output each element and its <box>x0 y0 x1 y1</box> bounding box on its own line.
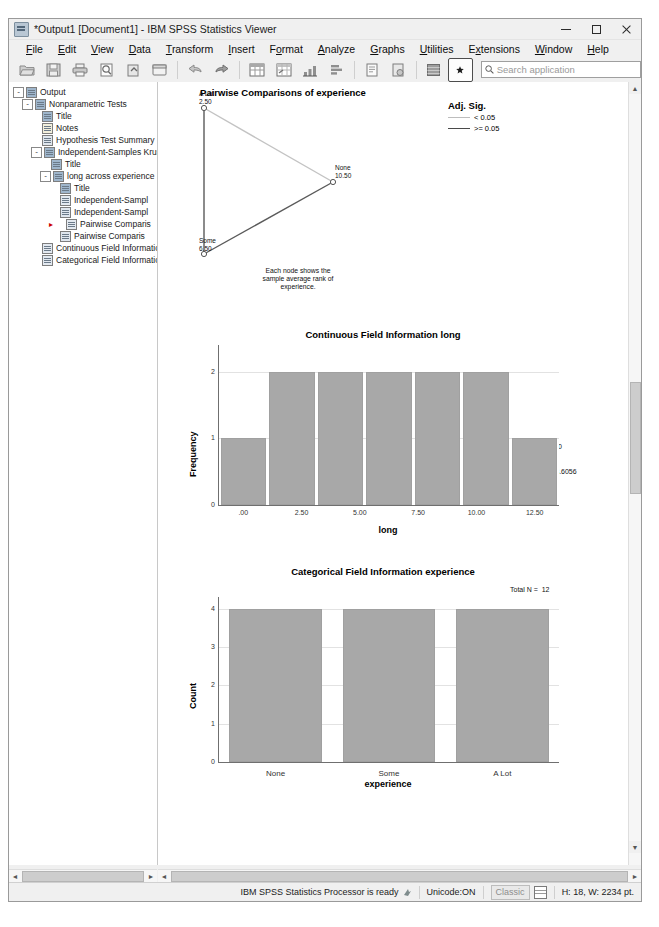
outline-scroll-left-arrow[interactable]: ◄ <box>9 871 21 883</box>
expander-spacer <box>49 208 58 217</box>
open-file-icon[interactable] <box>15 58 39 82</box>
search-input[interactable]: Search application <box>481 61 641 78</box>
menu-file[interactable]: File <box>19 42 50 56</box>
x-tick-label: 5.00 <box>346 509 374 516</box>
viewer-scroll-right-arrow[interactable]: ► <box>629 871 641 883</box>
menu-extensions[interactable]: Extensions <box>462 42 527 56</box>
outline-item[interactable]: Pairwise Comparis <box>13 230 157 242</box>
log-icon <box>53 171 64 182</box>
histogram-bar[interactable] <box>512 438 558 505</box>
close-button[interactable] <box>611 19 641 39</box>
scroll-down-arrow[interactable]: ▼ <box>629 841 641 853</box>
menu-analyze[interactable]: Analyze <box>311 42 362 56</box>
spss-viewer-icon <box>14 22 29 37</box>
outline-item-label: long across experience <box>67 171 154 181</box>
vertical-scroll-thumb[interactable] <box>630 382 641 494</box>
save-icon[interactable] <box>41 58 65 82</box>
menu-data[interactable]: Data <box>122 42 158 56</box>
print-preview-icon[interactable] <box>94 58 118 82</box>
maximize-button[interactable] <box>581 19 611 39</box>
select-cases-icon[interactable] <box>360 58 384 82</box>
expander-icon[interactable]: - <box>31 147 42 158</box>
outline-item[interactable]: -Output <box>13 86 157 98</box>
outline-item[interactable]: -Nonparametric Tests <box>13 98 157 110</box>
outline-scroll-right-arrow[interactable]: ► <box>145 871 157 883</box>
viewer-horizontal-scrollbar[interactable]: ◄ ► <box>158 869 641 883</box>
outline-item[interactable]: Hypothesis Test Summary <box>13 134 157 146</box>
recall-dialog-icon[interactable] <box>147 58 171 82</box>
menu-help[interactable]: Help <box>580 42 616 56</box>
outline-item[interactable]: Independent-Sampl <box>13 194 157 206</box>
goto-case-icon[interactable] <box>271 58 295 82</box>
viewer-vertical-scrollbar[interactable]: ▲ ▼ <box>628 82 641 865</box>
output-document-pane[interactable]: Pairwise Comparisons of experience A Lot… <box>158 82 641 865</box>
histogram-x-axis-title: long <box>218 525 558 535</box>
chart-icon <box>42 255 53 266</box>
viewer-scroll-thumb[interactable] <box>171 871 628 882</box>
menu-edit[interactable]: Edit <box>51 42 83 56</box>
histogram-bar[interactable] <box>366 372 412 505</box>
menu-insert[interactable]: Insert <box>221 42 261 56</box>
outline-horizontal-scrollbar[interactable]: ◄ ► <box>9 869 157 883</box>
expander-icon[interactable]: - <box>22 99 33 110</box>
expander-icon[interactable]: - <box>40 171 51 182</box>
scroll-up-arrow[interactable]: ▲ <box>629 82 641 94</box>
viewer-scroll-left-arrow[interactable]: ◄ <box>158 871 170 883</box>
redo-icon[interactable] <box>209 58 233 82</box>
continuous-field-information-chart[interactable]: Continuous Field Information long N = 12… <box>158 327 628 542</box>
expander-spacer <box>40 160 49 169</box>
menu-format[interactable]: Format <box>263 42 310 56</box>
variables-icon[interactable] <box>298 58 322 82</box>
histogram-bar[interactable] <box>415 372 461 505</box>
category-bar[interactable] <box>456 609 549 762</box>
histogram-bar[interactable] <box>318 372 364 505</box>
menu-transform[interactable]: Transform <box>159 42 220 56</box>
menu-window[interactable]: Window <box>528 42 579 56</box>
status-mode-cell: Classic <box>484 885 554 900</box>
table-icon <box>42 135 53 146</box>
outline-item[interactable]: Continuous Field Information <box>13 242 157 254</box>
histogram-bar[interactable] <box>221 438 267 505</box>
print-icon[interactable] <box>68 58 92 82</box>
outline-item[interactable]: ▸Pairwise Comparis <box>13 218 157 230</box>
export-icon[interactable] <box>121 58 145 82</box>
show-hide-icon[interactable] <box>422 58 446 82</box>
outline-item[interactable]: Title <box>13 110 157 122</box>
histogram-y-axis-title: Frequency <box>188 431 198 477</box>
categorical-field-information-chart[interactable]: Categorical Field Information experience… <box>158 564 628 789</box>
menu-utilities[interactable]: Utilities <box>413 42 461 56</box>
pairwise-comparisons-chart[interactable]: Pairwise Comparisons of experience A Lot… <box>158 82 628 322</box>
outline-pane[interactable]: -Output-Nonparametric TestsTitleNotesHyp… <box>9 82 158 865</box>
search-icon <box>485 65 494 74</box>
weight-cases-icon[interactable] <box>386 58 410 82</box>
menu-graphs[interactable]: Graphs <box>363 42 411 56</box>
undo-icon[interactable] <box>183 58 207 82</box>
histogram-bar[interactable] <box>463 372 509 505</box>
outline-item-label: Output <box>40 87 66 97</box>
outline-item-label: Title <box>65 159 81 169</box>
run-descriptives-icon[interactable] <box>324 58 348 82</box>
legend-swatch-dark <box>448 128 470 129</box>
outline-item[interactable]: Categorical Field Information <box>13 254 157 266</box>
node-label-alot: A Lot2.50 <box>199 90 214 105</box>
outline-item[interactable]: -long across experience <box>13 170 157 182</box>
histogram-bar[interactable] <box>269 372 315 505</box>
insert-marker-icon[interactable] <box>448 58 472 82</box>
outline-item[interactable]: -Independent-Samples Kruskal <box>13 146 157 158</box>
expander-spacer <box>31 136 40 145</box>
goto-data-icon[interactable] <box>245 58 269 82</box>
minimize-button[interactable] <box>551 19 581 39</box>
menu-view[interactable]: View <box>84 42 121 56</box>
category-bar[interactable] <box>229 609 322 762</box>
outline-item-label: Title <box>56 111 72 121</box>
outline-item[interactable]: Notes <box>13 122 157 134</box>
outline-item[interactable]: Independent-Sampl <box>13 206 157 218</box>
grid-icon[interactable] <box>534 886 547 899</box>
title-icon <box>60 183 71 194</box>
outline-item-label: Independent-Samples Kruskal <box>58 147 158 157</box>
outline-scroll-thumb[interactable] <box>22 871 144 882</box>
expander-icon[interactable]: - <box>13 87 24 98</box>
outline-item[interactable]: Title <box>13 182 157 194</box>
category-bar[interactable] <box>343 609 436 762</box>
outline-item[interactable]: Title <box>13 158 157 170</box>
